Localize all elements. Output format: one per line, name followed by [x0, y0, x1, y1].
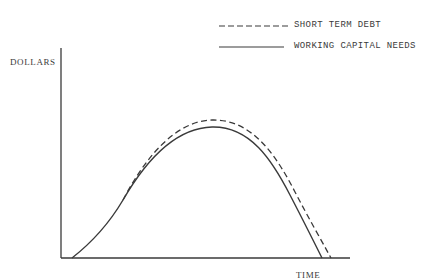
- legend-label-working-capital-needs: WORKING CAPITAL NEEDS: [294, 41, 416, 51]
- legend-label-short-term-debt: SHORT TERM DEBT: [294, 20, 381, 30]
- y-axis-label: DOLLARS: [10, 57, 56, 67]
- working-capital-needs-curve: [72, 127, 322, 258]
- short-term-debt-curve: [123, 120, 331, 258]
- x-axis-label: TIME: [296, 270, 320, 280]
